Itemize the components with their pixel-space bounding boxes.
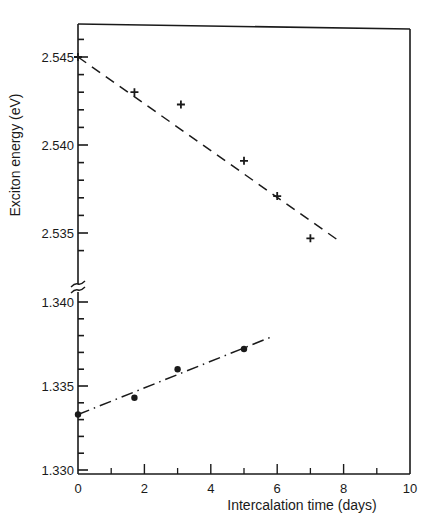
x-tick-label: 10 — [403, 481, 417, 496]
dashed-fit-line — [78, 57, 340, 242]
y-tick-label: 1.335 — [41, 379, 74, 394]
dot-marker-icon — [131, 395, 137, 401]
dot-marker-icon — [75, 411, 81, 417]
y-tick-label: 2.540 — [41, 138, 74, 153]
x-tick-label: 0 — [74, 481, 81, 496]
dot-marker-icon — [174, 366, 180, 372]
plus-marker-icon — [306, 234, 314, 242]
data-points — [74, 53, 314, 418]
y-axis-title: Exciton energy (eV) — [7, 94, 23, 217]
plus-marker-icon — [240, 157, 248, 165]
y-tick-label: 1.340 — [41, 295, 74, 310]
x-tick-label: 6 — [274, 481, 281, 496]
plus-marker-icon — [177, 101, 185, 109]
y-tick-label: 1.330 — [41, 463, 74, 478]
x-tick-label: 4 — [207, 481, 214, 496]
x-axis-title: Intercalation time (days) — [227, 497, 376, 513]
x-tick-label: 2 — [141, 481, 148, 496]
y-tick-label: 2.545 — [41, 50, 74, 65]
y-axis: 2.5352.5402.5451.3301.3351.340 — [41, 24, 88, 478]
y-tick-label: 2.535 — [41, 226, 74, 241]
plus-marker-icon — [130, 88, 138, 96]
x-axis: 0246810 — [74, 464, 417, 496]
exciton-energy-chart: 2.5352.5402.5451.3301.3351.340 0246810 I… — [0, 0, 433, 527]
fit-lines — [78, 57, 340, 415]
dot-marker-icon — [241, 346, 247, 352]
top-border — [78, 24, 410, 29]
x-tick-label: 8 — [340, 481, 347, 496]
